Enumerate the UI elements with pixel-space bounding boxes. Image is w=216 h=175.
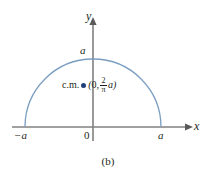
x-axis-arrowhead [185, 123, 193, 130]
x-axis-tick-label-negative-a: −a [14, 130, 27, 141]
center-of-mass-dot-marker [81, 83, 86, 88]
center-of-mass-annotation: c.m. ( 0 , 2 π a ) [62, 75, 116, 95]
center-of-mass-coordinates: ( 0 , 2 π a ) [88, 77, 116, 94]
origin-label: 0 [84, 130, 90, 141]
coordinate-comma: , [97, 80, 100, 90]
x-axis-label: x [194, 120, 199, 132]
coordinate-close-paren: ) [113, 80, 116, 90]
figure-caption: (b) [0, 155, 216, 167]
x-axis-tick-label-a: a [158, 130, 164, 141]
fraction-denominator: π [101, 86, 107, 94]
y-axis-label: y [86, 10, 91, 22]
fraction-two-over-pi: 2 π [100, 77, 107, 94]
fraction-numerator: 2 [101, 77, 107, 85]
center-of-mass-label: c.m. [62, 80, 79, 90]
y-axis-tick-label-a: a [80, 45, 86, 56]
